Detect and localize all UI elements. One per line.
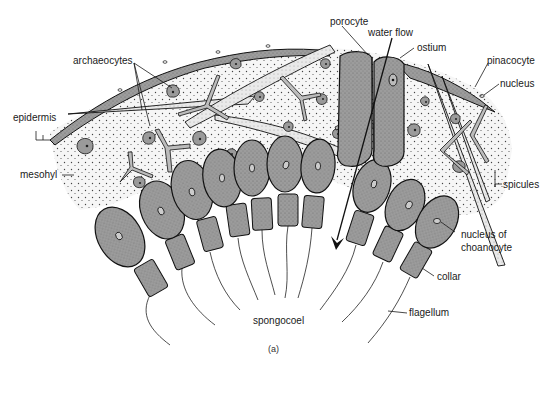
label-ostium: ostium (417, 42, 446, 54)
label-archaeocytes: archaeocytes (73, 55, 132, 67)
label-nucleus-of-choanocyte-2: choanocyte (461, 242, 512, 254)
label-mesohyl: mesohyl (20, 169, 57, 181)
figure-caption: (a) (268, 343, 279, 355)
porocyte (337, 52, 404, 167)
label-nucleus-of-choanocyte-1: nucleus of (461, 229, 507, 241)
label-spicules: spicules (503, 179, 539, 191)
label-flagellum: flagellum (409, 307, 449, 319)
label-water-flow: water flow (368, 27, 413, 39)
label-porocyte: porocyte (330, 16, 368, 28)
label-collar: collar (437, 271, 461, 283)
label-nucleus: nucleus (500, 78, 534, 90)
label-spongocoel: spongocoel (253, 315, 304, 327)
sponge-diagram: porocyte water flow ostium pinacocyte nu… (0, 0, 547, 398)
choanocyte (298, 138, 337, 298)
label-pinacocyte: pinacocyte (487, 55, 535, 67)
label-epidermis: epidermis (13, 112, 56, 124)
